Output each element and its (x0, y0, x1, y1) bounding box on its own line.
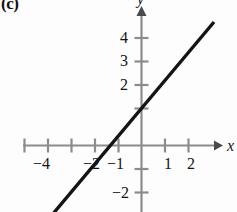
x-tick-label--2: −2 (83, 156, 100, 172)
x-tick-label-2: 2 (187, 156, 195, 172)
x-axis-label: x (227, 138, 234, 154)
y-tick-label-3: 3 (120, 53, 128, 69)
y-tick-label-4: 4 (120, 30, 128, 46)
graph-figure: (c) −4 −2 (0, 0, 237, 212)
y-tick-label--2: −2 (112, 185, 129, 201)
y-tick-label-2: 2 (120, 77, 128, 93)
coordinate-plane (0, 0, 237, 212)
x-tick-label-1: 1 (164, 156, 172, 172)
y-axis-label: y (137, 0, 144, 7)
x-tick-label--4: −4 (33, 156, 50, 172)
x-axis-arrowhead (214, 141, 223, 151)
x-tick-label--1: −1 (107, 156, 124, 172)
y-axis-arrowhead (137, 6, 147, 16)
plotted-line (52, 22, 214, 212)
